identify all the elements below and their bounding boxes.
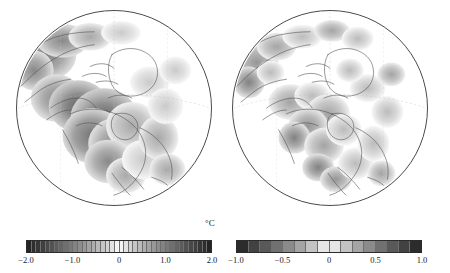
colorbar-cell bbox=[341, 241, 353, 252]
colorbar-cell bbox=[283, 241, 295, 252]
globe-right bbox=[232, 10, 428, 206]
colorbar-cell bbox=[260, 241, 272, 252]
colorbar-cell bbox=[249, 241, 261, 252]
colorbar-cell bbox=[318, 241, 330, 252]
units-label: °C bbox=[205, 218, 215, 228]
colorbar-left[interactable] bbox=[26, 240, 212, 253]
globe-left bbox=[16, 10, 212, 206]
colorbar-cell bbox=[330, 241, 342, 252]
colorbar-cell bbox=[376, 241, 388, 252]
colorbar-cell bbox=[295, 241, 307, 252]
colorbar-cell bbox=[306, 241, 318, 252]
globe-right-map bbox=[233, 11, 427, 205]
colorbar-cell bbox=[237, 241, 249, 252]
globe-panel-right bbox=[230, 8, 430, 212]
colorbar-cell bbox=[272, 241, 284, 252]
colorbar-tick-label: −1.0 bbox=[228, 255, 243, 265]
globe-left-map bbox=[17, 11, 211, 205]
colorbar-tick-label: 1.0 bbox=[417, 255, 428, 265]
colorbar-tick-label: 0.5 bbox=[370, 255, 381, 265]
colorbar-tick-label: 2.0 bbox=[207, 255, 218, 265]
colorbar-tick-label: 1.0 bbox=[160, 255, 171, 265]
colorbar-tick-label: −2.0 bbox=[18, 255, 33, 265]
colorbar-left-wrap: −2.0−1.001.02.0 bbox=[26, 240, 212, 273]
colorbar-left-ticks: −2.0−1.001.02.0 bbox=[26, 255, 212, 269]
colorbar-right[interactable] bbox=[236, 240, 422, 253]
colorbar-cell bbox=[387, 241, 399, 252]
colorbar-tick-label: 0 bbox=[117, 255, 121, 265]
colorbar-right-ticks: −1.0−0.500.51.0 bbox=[236, 255, 422, 269]
colorbar-right-wrap: −1.0−0.500.51.0 bbox=[236, 240, 422, 273]
figure-root: °C −2.0−1.001.02.0 −1.0−0.500.51.0 bbox=[0, 0, 450, 273]
colorbar-cell bbox=[353, 241, 365, 252]
colorbar-tick-label: −1.0 bbox=[65, 255, 80, 265]
colorbar-cell bbox=[399, 241, 411, 252]
colorbar-cell bbox=[207, 241, 211, 252]
colorbar-cell bbox=[410, 241, 421, 252]
colorbar-cell bbox=[364, 241, 376, 252]
colorbar-tick-label: −0.5 bbox=[275, 255, 290, 265]
globe-panel-left bbox=[14, 8, 214, 212]
colorbar-tick-label: 0 bbox=[327, 255, 331, 265]
